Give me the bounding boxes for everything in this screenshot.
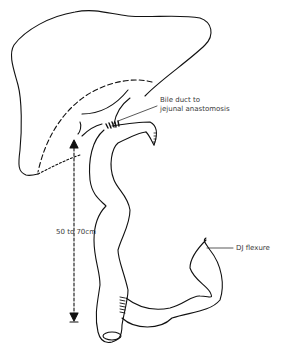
duodenojejunal-limb (122, 238, 222, 327)
anastomosis-label-line1: Bile duct to (160, 96, 200, 105)
jejunum-inner-edge (146, 132, 154, 145)
hilar-small-left (78, 122, 81, 134)
arrowhead-down-icon (70, 313, 78, 321)
diagram-canvas (0, 0, 281, 353)
enteroenterostomy-stitches (120, 297, 125, 313)
hilar-curve-left (82, 124, 102, 136)
anastomosis-leader-line (118, 106, 157, 121)
anastomosis-stitches (106, 121, 119, 128)
liver-outline (11, 11, 211, 176)
anastomosis-label-line2: jejunal anastomosis (160, 105, 230, 114)
length-label: 50 to 70cm (56, 228, 96, 237)
dj-flexure-label: DJ flexure (236, 244, 270, 253)
arrowhead-up-icon (70, 140, 78, 148)
jejunum-end (103, 332, 121, 340)
